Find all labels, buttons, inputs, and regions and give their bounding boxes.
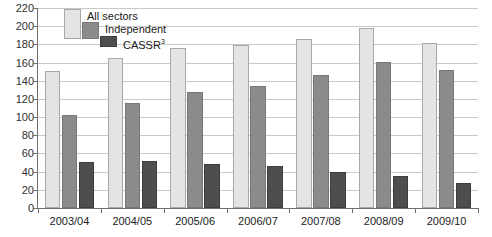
x-axis-separator xyxy=(227,208,228,213)
x-axis-separator xyxy=(352,208,353,213)
bar xyxy=(233,45,249,208)
y-tick-label-80: 80 xyxy=(4,130,34,141)
y-tick-label-60: 60 xyxy=(4,148,34,159)
bar xyxy=(456,183,472,208)
bar xyxy=(187,92,203,208)
bar-group xyxy=(422,8,472,208)
legend-label-cassr-text: CASSR xyxy=(123,39,161,51)
legend-label-all-sectors: All sectors xyxy=(87,10,138,22)
y-tick-label-40: 40 xyxy=(4,167,34,178)
legend-swatch-all-sectors xyxy=(64,9,81,39)
bar xyxy=(125,103,141,208)
bar xyxy=(296,39,312,208)
y-tick-label-100: 100 xyxy=(4,112,34,123)
bar xyxy=(250,86,266,208)
bar xyxy=(45,71,61,208)
bar xyxy=(313,75,329,208)
bar xyxy=(170,48,186,208)
legend-swatch-cassr xyxy=(100,36,117,47)
y-tick-label-200: 200 xyxy=(4,21,34,32)
bar-chart: 020406080100120140160180200220 2003/0420… xyxy=(0,0,492,237)
x-tick-label: 2003/04 xyxy=(38,215,101,228)
gridline-0 xyxy=(38,208,478,209)
bar-group xyxy=(170,8,220,208)
x-axis-separator xyxy=(289,208,290,213)
x-tick-label: 2006/07 xyxy=(227,215,290,228)
bar xyxy=(393,176,409,208)
y-tick-label-0: 0 xyxy=(4,203,34,214)
bar xyxy=(359,28,375,208)
bar xyxy=(267,166,283,208)
bar-group xyxy=(233,8,283,208)
x-axis-separator xyxy=(38,208,39,213)
bar xyxy=(204,164,220,208)
y-tick-label-120: 120 xyxy=(4,94,34,105)
legend-label-cassr: CASSR3 xyxy=(123,36,165,51)
y-tick-label-220: 220 xyxy=(4,3,34,14)
bar xyxy=(376,62,392,208)
bar xyxy=(439,70,455,208)
legend-swatch-independent xyxy=(82,22,99,39)
bar-group xyxy=(359,8,409,208)
legend-label-independent: Independent xyxy=(105,23,166,35)
x-axis-separator xyxy=(101,208,102,213)
x-tick-label: 2008/09 xyxy=(352,215,415,228)
x-tick-label: 2009/10 xyxy=(415,215,478,228)
x-axis-separator xyxy=(478,208,479,213)
x-tick-label: 2007/08 xyxy=(289,215,352,228)
bar xyxy=(79,162,95,208)
x-tick-label: 2004/05 xyxy=(101,215,164,228)
bar-group xyxy=(296,8,346,208)
y-tick-label-140: 140 xyxy=(4,76,34,87)
y-tick-label-20: 20 xyxy=(4,185,34,196)
x-axis-separator xyxy=(415,208,416,213)
x-tick-label: 2005/06 xyxy=(164,215,227,228)
x-axis-separator xyxy=(164,208,165,213)
bar xyxy=(330,172,346,208)
bar xyxy=(62,115,78,208)
bar xyxy=(142,161,158,208)
y-tick-label-160: 160 xyxy=(4,58,34,69)
bar xyxy=(108,58,124,208)
y-tick-label-180: 180 xyxy=(4,39,34,50)
bar xyxy=(422,43,438,208)
legend-label-cassr-superscript: 3 xyxy=(161,38,165,45)
